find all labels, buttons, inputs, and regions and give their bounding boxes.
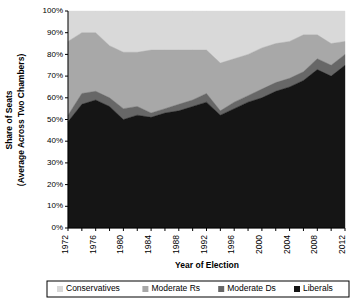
y-tick-label: 80% xyxy=(47,50,63,59)
y-tick-label: 100% xyxy=(43,6,63,15)
y-tick-label: 50% xyxy=(47,115,63,124)
x-tick-label: 1984 xyxy=(143,235,153,254)
y-tick-label: 10% xyxy=(47,201,63,210)
y-tick-label: 90% xyxy=(47,28,63,37)
x-tick-label: 1996 xyxy=(226,235,236,254)
y-tick-label: 30% xyxy=(47,158,63,167)
x-tick-label: 2008 xyxy=(309,235,319,254)
y-axis-title-line1: Share of Seats xyxy=(4,90,14,149)
y-tick-label: 40% xyxy=(47,136,63,145)
y-tick-label: 0% xyxy=(51,223,63,232)
x-axis-ticks: 1972197619801984198819921996200020042008… xyxy=(60,228,347,254)
y-tick-label: 70% xyxy=(47,71,63,80)
legend-swatch-conservatives xyxy=(57,286,63,292)
x-tick-label: 1976 xyxy=(88,235,98,254)
y-tick-label: 20% xyxy=(47,180,63,189)
legend-label-moderate-ds: Moderate Ds xyxy=(227,283,276,293)
legend-swatch-moderate-ds xyxy=(218,286,224,292)
x-axis-title: Year of Election xyxy=(175,260,239,270)
x-tick-label: 2000 xyxy=(254,235,264,254)
x-tick-label: 1980 xyxy=(115,235,125,254)
y-axis-title-line2: (Average Across Two Chambers) xyxy=(16,54,26,187)
legend-label-conservatives: Conservatives xyxy=(66,283,120,293)
chart-legend: ConservativesModerate RsModerate DsLiber… xyxy=(47,281,349,297)
chart-canvas: 0%10%20%30%40%50%60%70%80%90%100% 197219… xyxy=(0,0,354,300)
legend-swatch-moderate-rs xyxy=(142,286,148,292)
chart-area-stack xyxy=(68,11,345,228)
x-tick-label: 1988 xyxy=(171,235,181,254)
legend-label-liberals: Liberals xyxy=(303,283,333,293)
stacked-area-chart-figure: 0%10%20%30%40%50%60%70%80%90%100% 197219… xyxy=(0,0,354,300)
legend-label-moderate-rs: Moderate Rs xyxy=(151,283,200,293)
legend-swatch-liberals xyxy=(294,286,300,292)
x-tick-label: 2012 xyxy=(337,235,347,254)
x-tick-label: 2004 xyxy=(282,235,292,254)
x-tick-label: 1972 xyxy=(60,235,70,254)
x-tick-label: 1992 xyxy=(199,235,209,254)
y-tick-label: 60% xyxy=(47,93,63,102)
y-axis-ticks: 0%10%20%30%40%50%60%70%80%90%100% xyxy=(43,6,68,232)
